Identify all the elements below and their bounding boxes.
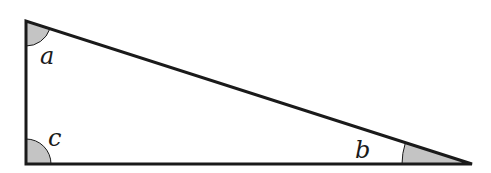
- angle-c-label: c: [48, 124, 61, 152]
- triangle-diagram: a b c: [0, 0, 491, 173]
- angle-b-label: b: [355, 136, 370, 164]
- angle-a-label: a: [40, 42, 54, 70]
- triangle-outline: [26, 21, 472, 164]
